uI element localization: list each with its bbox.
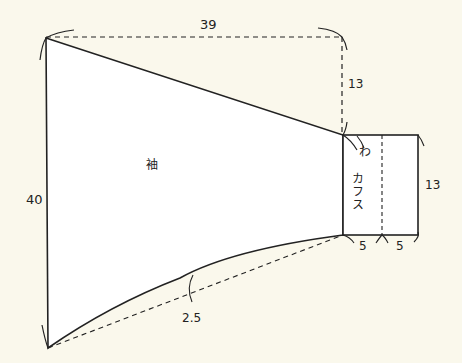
corner-mark-cuff-bl — [343, 235, 354, 243]
curve-depth-mark — [189, 275, 193, 302]
dim-cuff-width-right: 5 — [396, 240, 404, 252]
corner-mark-top-right — [318, 28, 347, 50]
dim-cuff-height: 13 — [425, 179, 440, 191]
corner-mark-cuff-tr — [418, 135, 424, 146]
dim-underarm-curve-depth: 2.5 — [182, 312, 201, 324]
dim-sleeve-slope-drop: 13 — [348, 78, 363, 90]
sleeve-piece — [46, 38, 343, 348]
corner-mark-cuff-mid — [376, 235, 388, 243]
pattern-drawing — [0, 0, 462, 363]
cuff-fold-mark: わ — [359, 146, 371, 158]
cuff-label: カフス — [350, 172, 362, 211]
dim-sleeve-top-width: 39 — [200, 18, 217, 31]
dim-sleeve-height: 40 — [26, 193, 43, 206]
dim-cuff-width-left: 5 — [359, 240, 367, 252]
sleeve-label: 袖 — [146, 159, 158, 171]
